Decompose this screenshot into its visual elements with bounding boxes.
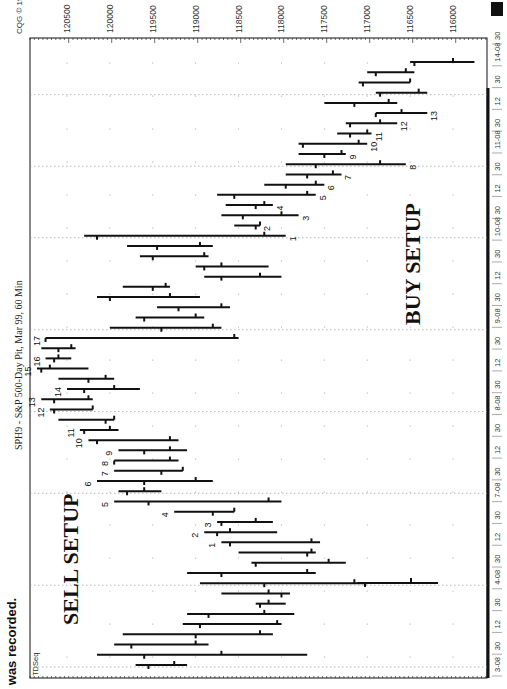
time-tick-label: 30: [493, 206, 502, 214]
buy-count-label: 9: [348, 154, 358, 159]
grid-dot: [324, 656, 325, 657]
time-tick-label: 11-08: [493, 130, 502, 149]
buy-count-label: 8: [408, 165, 418, 170]
grid-dot: [281, 62, 282, 63]
grid-dot: [195, 425, 196, 426]
grid-dot: [195, 656, 196, 657]
buy-count-label: 7: [343, 175, 353, 180]
grid-dot: [109, 128, 110, 129]
grid-dot: [324, 62, 325, 63]
grid-dot: [367, 260, 368, 261]
price-tick-label: 119500: [148, 5, 158, 33]
grid-dot: [195, 524, 196, 525]
price-tick-label: 117000: [362, 5, 372, 33]
copyright-label: CQG © 1999: [15, 0, 24, 34]
sell-count-label: 13: [27, 397, 37, 407]
grid-dot: [367, 524, 368, 525]
grid-dot: [66, 458, 67, 459]
grid-dot: [238, 326, 239, 327]
grid-dot: [324, 491, 325, 492]
time-tick-label: 30: [493, 119, 502, 127]
grid-dot: [452, 656, 453, 657]
sell-setup-annotation: SELL SETUP: [58, 494, 83, 625]
grid-dot: [367, 359, 368, 360]
grid-dot: [367, 458, 368, 459]
time-tick-label: 30: [493, 380, 502, 388]
grid-dot: [281, 425, 282, 426]
time-tick-label: 30: [493, 337, 502, 345]
grid-dot: [452, 326, 453, 327]
grid-dot: [452, 161, 453, 162]
grid-dot: [367, 392, 368, 393]
buy-setup-annotation: BUY SETUP: [400, 203, 425, 325]
grid-dot: [66, 194, 67, 195]
grid-dot: [152, 392, 153, 393]
buy-count-label: 11: [374, 132, 384, 141]
grid-dot: [367, 425, 368, 426]
buy-count-label: 4: [275, 206, 285, 211]
grid-dot: [281, 95, 282, 96]
grid-dot: [324, 260, 325, 261]
grid-dot: [367, 623, 368, 624]
grid-dot: [238, 128, 239, 129]
time-tick-label: 30: [493, 162, 502, 170]
grid-dot: [324, 623, 325, 624]
grid-dot: [281, 557, 282, 558]
grid-dot: [109, 590, 110, 591]
grid-dot: [152, 590, 153, 591]
grid-dot: [195, 95, 196, 96]
price-tick-label: 118500: [234, 5, 244, 33]
grid-dot: [324, 128, 325, 129]
price-tick-label: 120500: [62, 4, 72, 33]
grid-dot: [238, 260, 239, 261]
sell-count-label: 16: [32, 356, 42, 366]
grid-dot: [281, 161, 282, 162]
grid-dot: [324, 293, 325, 294]
ohlc-chart: 1205001200001195001190001185001180001175…: [0, 0, 507, 689]
grid-dot: [452, 392, 453, 393]
time-tick-label: 30: [493, 468, 502, 476]
grid-dot: [152, 557, 153, 558]
grid-dot: [109, 623, 110, 624]
grid-dot: [238, 293, 239, 294]
grid-dot: [452, 95, 453, 96]
grid-dot: [281, 326, 282, 327]
time-tick-label: 14-08: [493, 43, 502, 62]
grid-dot: [410, 458, 411, 459]
price-tick-label: 119000: [191, 5, 201, 33]
grid-dot: [195, 557, 196, 558]
price-tick-label: 117500: [319, 5, 329, 33]
grid-dot: [410, 95, 411, 96]
grid-dot: [152, 227, 153, 228]
grid-dot: [410, 128, 411, 129]
grid-dot: [452, 524, 453, 525]
sell-count-label: 6: [83, 482, 93, 487]
grid-dot: [452, 359, 453, 360]
grid-dot: [324, 161, 325, 162]
time-tick-label: 9-08: [493, 308, 502, 323]
time-tick-label: 4-08: [493, 570, 502, 585]
grid-dot: [152, 62, 153, 63]
grid-dot: [109, 293, 110, 294]
grid-dot: [367, 62, 368, 63]
grid-dot: [66, 293, 67, 294]
caption: was recorded.: [2, 600, 22, 689]
grid-dot: [66, 95, 67, 96]
grid-dot: [238, 656, 239, 657]
time-tick-label: 30: [493, 250, 502, 258]
sell-count-label: 17: [32, 336, 42, 346]
time-tick-label: 30: [493, 293, 502, 301]
grid-dot: [109, 194, 110, 195]
grid-dot: [281, 392, 282, 393]
sell-count-label: 2: [190, 533, 200, 538]
price-tick-label: 120000: [105, 4, 115, 33]
time-tick-label: 12: [493, 184, 502, 192]
grid-dot: [324, 557, 325, 558]
grid-dot: [238, 227, 239, 228]
sell-count-label: 3: [203, 522, 213, 527]
grid-dot: [367, 293, 368, 294]
grid-dot: [66, 161, 67, 162]
grid-dot: [410, 557, 411, 558]
buy-count-label: 1: [288, 236, 298, 241]
grid-dot: [452, 425, 453, 426]
